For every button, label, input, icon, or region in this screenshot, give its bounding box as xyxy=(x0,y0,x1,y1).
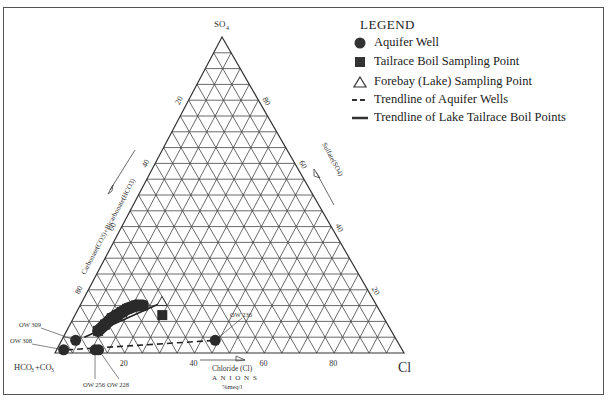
tick-label-hco3: 20 xyxy=(173,95,185,106)
corner-label-co3: +CO xyxy=(35,362,52,372)
legend-item-tailrace-trend: Trendline of Lake Tailrace Boil Points xyxy=(352,110,566,125)
tailrace-square-marker xyxy=(138,301,148,311)
anions-caption: A N I O N S xyxy=(212,374,258,382)
grid-line xyxy=(164,148,282,353)
legend-item-aquifer-well: Aquifer Well xyxy=(352,35,439,50)
tick-label-hco3: 80 xyxy=(73,284,85,295)
right-axis-arrow xyxy=(316,172,334,205)
grid-line xyxy=(282,242,340,353)
filled-circle-icon xyxy=(352,36,368,50)
bottom-axis-title: Chloride (Cl) xyxy=(212,364,253,373)
tick-label-so4: 20 xyxy=(370,285,382,296)
apex-label-so4: SO xyxy=(214,19,226,29)
tick-label-cl: 20 xyxy=(120,359,128,368)
dashed-line-icon xyxy=(352,93,368,107)
tick-label-hco3: 40 xyxy=(140,158,152,169)
filled-square-icon xyxy=(352,55,368,69)
tailrace-square-marker xyxy=(157,310,167,320)
legend-title: LEGEND xyxy=(360,17,415,33)
legend-item-tailrace: Tailrace Boil Sampling Point xyxy=(352,54,519,69)
sub: 3 xyxy=(31,367,34,373)
well-label: OW 308 xyxy=(10,337,32,344)
sub: 3 xyxy=(51,367,54,373)
grid-line xyxy=(113,242,177,353)
grid-line xyxy=(212,179,304,353)
apex-label-sub: 4 xyxy=(226,25,229,31)
well-leader-line xyxy=(41,328,76,340)
tailrace-square-marker xyxy=(122,304,132,314)
right-arrow-head-icon xyxy=(314,169,320,178)
grid-line xyxy=(72,53,231,353)
units-caption: %meq/l xyxy=(222,383,242,390)
tick-label-cl: 80 xyxy=(329,359,337,368)
well-label: OW 256 xyxy=(83,381,106,388)
grid-line xyxy=(317,274,359,353)
grid-line xyxy=(197,84,352,353)
well-label: OW 309 xyxy=(19,321,41,328)
corner-label-cl: Cl xyxy=(398,360,411,375)
tick-label-so4: 80 xyxy=(261,96,273,107)
corner-label-hco3: HCO xyxy=(14,362,32,372)
forebay-triangle-marker xyxy=(157,296,167,305)
tick-label-cl: 60 xyxy=(259,359,267,368)
legend-item-forebay: Forebay (Lake) Sampling Point xyxy=(352,74,532,89)
grid-line xyxy=(177,148,286,353)
grid-line xyxy=(387,337,395,353)
well-label: OW 228 xyxy=(107,381,129,388)
legend-item-aquifer-trend: Trendline of Aquifer Wells xyxy=(352,92,508,107)
tick-label-cl: 40 xyxy=(190,359,198,368)
left-arrow-head-icon xyxy=(108,185,113,194)
open-triangle-icon xyxy=(352,75,368,89)
well-leader-line xyxy=(99,350,119,379)
tick-label-so4: 40 xyxy=(333,222,345,233)
right-axis-title: Sulfate(SO4) xyxy=(320,141,345,178)
tick-label-so4: 60 xyxy=(297,159,309,170)
dashed-trendline xyxy=(67,340,215,349)
solid-line-icon xyxy=(352,111,368,125)
well-label: OW 236 xyxy=(230,311,253,318)
